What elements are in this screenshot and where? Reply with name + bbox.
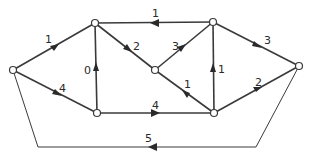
node-d [152,67,159,74]
node-c [94,110,101,117]
node-a [10,67,17,74]
edge-label-e-g: 3 [264,34,271,47]
node-e [210,19,217,26]
arrow-icon [182,90,190,98]
edge-label-g-a: 5 [145,132,152,145]
network-diagram: 1 4 0 1 2 4 3 1 1 3 2 5 [0,0,310,157]
arrow-icon [210,63,216,72]
arrow-icon [150,19,159,27]
edge-label-f-d: 1 [184,78,191,91]
edge-label-c-f: 4 [152,99,159,112]
node-f [211,110,218,117]
edge-label-f-g: 2 [255,76,262,89]
arrow-icon [93,62,99,71]
edge-label-a-c: 4 [59,82,66,95]
edge-label-b-d: 2 [133,40,140,53]
edge-label-a-b: 1 [45,33,52,46]
edge-label-d-e: 3 [172,40,179,53]
node-b [92,20,99,27]
edge-label-e-b: 1 [152,7,159,20]
node-g [296,63,303,70]
edge-label-c-b: 0 [84,64,91,77]
edge-label-f-e: 1 [218,63,225,76]
